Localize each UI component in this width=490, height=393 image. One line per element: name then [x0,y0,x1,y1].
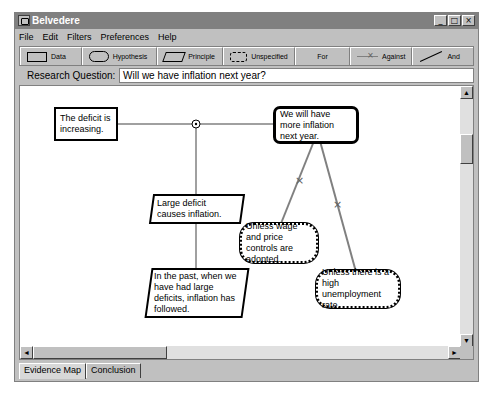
tab-conclusion[interactable]: Conclusion [86,363,141,378]
evidence-map-canvas[interactable]: × × The deficit is increasing. We will h… [20,86,461,347]
node-unspecified[interactable]: Unless there is a high unemployment rate… [316,270,400,308]
view-tabs: Evidence Map Conclusion [19,363,141,379]
title-bar: Belvedere _ □ × [15,13,478,29]
vertical-scrollbar[interactable]: ▲ ▼ [460,86,473,347]
tab-evidence-map[interactable]: Evidence Map [19,363,86,379]
app-window: Belvedere _ □ × File Edit Filters Prefer… [14,12,479,382]
parallelogram-icon [162,52,186,62]
tool-and-button[interactable]: And [412,47,473,65]
against-x-marker: × [295,174,304,187]
tool-hypothesis-button[interactable]: Hypothesis [82,47,158,65]
rectangle-icon [27,52,47,62]
diagonal-line-icon [420,51,442,62]
scroll-left-button[interactable]: ◄ [20,346,33,359]
evidence-map-pane: × × The deficit is increasing. We will h… [19,85,474,360]
close-button[interactable]: × [462,15,475,26]
against-x-marker: × [333,198,342,211]
menu-file[interactable]: File [19,32,34,42]
minimize-button[interactable]: _ [434,15,447,26]
tool-for-button[interactable]: For [295,47,351,65]
node-principle[interactable]: Large deficit causes inflation. [149,194,245,224]
menu-help[interactable]: Help [158,32,177,42]
horizontal-scroll-thumb[interactable] [33,346,167,359]
research-question-input[interactable]: Will we have inflation next year? [119,68,474,83]
cloud-icon [230,52,247,62]
tool-against-button[interactable]: Against [350,47,412,65]
research-question-label: Research Question: [19,70,119,81]
window-title: Belvedere [32,15,80,26]
menu-filters[interactable]: Filters [67,32,92,42]
rounded-rect-icon [89,51,109,62]
maximize-button[interactable]: □ [448,15,461,26]
node-principle[interactable]: In the past, when we have had large defi… [144,268,249,318]
node-unspecified[interactable]: Unless wage and price controls are adopt… [240,223,318,263]
scroll-corner [460,346,473,359]
horizontal-scrollbar[interactable]: ◄ ► [20,346,461,359]
menu-bar: File Edit Filters Preferences Help [15,30,478,44]
tool-unspecified-button[interactable]: Unspecified [223,47,295,65]
menu-preferences[interactable]: Preferences [101,32,150,42]
tool-principle-button[interactable]: Principle [157,47,223,65]
research-question-row: Research Question: Will we have inflatio… [19,68,474,83]
menu-edit[interactable]: Edit [43,32,59,42]
tool-data-button[interactable]: Data [20,47,82,65]
vertical-scroll-thumb[interactable] [460,134,473,164]
scroll-up-button[interactable]: ▲ [460,86,473,99]
node-hypothesis[interactable]: We will have more inflation next year. [273,106,359,144]
toolbar: Data Hypothesis Principle Unspecified Fo… [19,46,474,66]
app-icon [18,15,30,26]
node-data[interactable]: The deficit is increasing. [54,107,118,141]
crossed-line-icon [357,56,378,57]
